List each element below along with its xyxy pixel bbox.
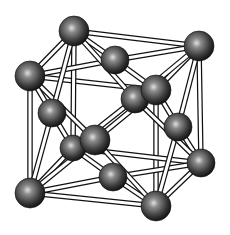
bond-highlight <box>199 46 201 163</box>
atom-back-top-right <box>184 31 214 61</box>
atoms-group <box>15 16 215 221</box>
atom-left-face-center <box>38 99 66 127</box>
atom-bottom-face-center <box>99 163 127 191</box>
atom-top-face-center <box>101 46 129 74</box>
fcc-unit-cell-diagram <box>0 0 230 235</box>
atom-back-top-left <box>59 16 89 46</box>
lattice-svg <box>0 0 230 235</box>
atom-front-bottom-right <box>141 191 171 221</box>
atom-front-top-left <box>15 61 45 91</box>
atom-right-face-center <box>164 113 192 141</box>
bond-highlight <box>73 31 74 148</box>
atom-front-top-right <box>141 75 171 105</box>
atom-front-bottom-left <box>15 178 45 208</box>
atom-back-bottom-right <box>187 149 215 177</box>
atom-front-face-center <box>80 125 110 155</box>
